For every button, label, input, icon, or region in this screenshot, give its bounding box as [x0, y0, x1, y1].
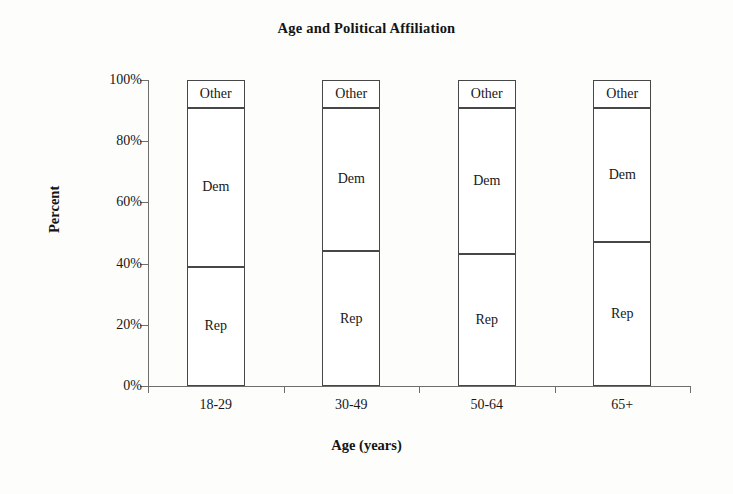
bar-segment-label: Dem — [609, 168, 636, 182]
bar-segment-dem-30-49: Dem — [322, 108, 380, 252]
x-tick-mark — [419, 386, 420, 393]
y-tick-label: 100% — [109, 72, 142, 88]
bar-segment-rep-30-49: Rep — [322, 251, 380, 386]
bar-segment-rep-18-29: Rep — [187, 267, 245, 386]
x-tick-mark — [555, 386, 556, 393]
bar-segment-label: Rep — [204, 319, 227, 333]
stacked-bar-65+: RepDemOther — [593, 80, 651, 386]
bar-segment-other-65+: Other — [593, 80, 651, 108]
x-axis-title: Age (years) — [0, 437, 733, 454]
y-tick-label: 40% — [116, 256, 142, 272]
bar-segment-dem-18-29: Dem — [187, 108, 245, 267]
bar-segment-label: Other — [606, 87, 638, 101]
bar-segment-label: Rep — [475, 313, 498, 327]
bar-segment-other-30-49: Other — [322, 80, 380, 108]
plot-area: 0%20%40%60%80%100% RepDemOtherRepDemOthe… — [148, 80, 690, 386]
y-tick-label: 0% — [123, 378, 142, 394]
y-tick-label: 20% — [116, 317, 142, 333]
stacked-bar-18-29: RepDemOther — [187, 80, 245, 386]
x-axis-label-65+: 65+ — [611, 397, 633, 413]
bar-segment-other-50-64: Other — [458, 80, 516, 108]
bar-segment-label: Dem — [473, 174, 500, 188]
bar-segment-label: Other — [200, 87, 232, 101]
bar-segment-rep-65+: Rep — [593, 242, 651, 386]
bar-segment-dem-50-64: Dem — [458, 108, 516, 255]
x-tick-mark — [690, 386, 691, 393]
bar-segment-label: Rep — [611, 307, 634, 321]
x-tick-mark — [148, 386, 149, 393]
chart-figure: Age and Political Affiliation Percent 0%… — [0, 0, 733, 494]
x-axis-label-50-64: 50-64 — [470, 397, 503, 413]
bar-segment-dem-65+: Dem — [593, 108, 651, 243]
bar-segment-label: Other — [471, 87, 503, 101]
chart-title: Age and Political Affiliation — [0, 20, 733, 37]
bar-segment-label: Dem — [202, 180, 229, 194]
bar-segment-other-18-29: Other — [187, 80, 245, 108]
x-axis-label-30-49: 30-49 — [335, 397, 368, 413]
stacked-bar-50-64: RepDemOther — [458, 80, 516, 386]
y-tick-label: 80% — [116, 133, 142, 149]
bar-segment-label: Rep — [340, 312, 363, 326]
bar-segment-label: Dem — [338, 172, 365, 186]
y-axis-title: Percent — [46, 186, 63, 233]
x-tick-mark — [284, 386, 285, 393]
x-axis-label-18-29: 18-29 — [199, 397, 232, 413]
y-tick-label: 60% — [116, 194, 142, 210]
bar-segment-rep-50-64: Rep — [458, 254, 516, 386]
stacked-bar-30-49: RepDemOther — [322, 80, 380, 386]
bar-segment-label: Other — [335, 87, 367, 101]
